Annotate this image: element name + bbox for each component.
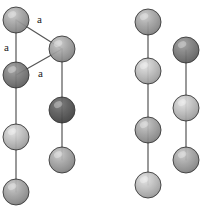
atom-body — [173, 95, 199, 121]
atom-sphere — [3, 124, 29, 150]
atom-sphere — [173, 37, 199, 63]
structure-figure: aaa — [0, 0, 206, 210]
atom-sphere — [135, 117, 161, 143]
atom-body — [135, 172, 161, 198]
atom-body — [49, 147, 75, 173]
atom-body — [3, 124, 29, 150]
atom-body — [3, 7, 29, 33]
sphere-layer — [3, 7, 199, 205]
atom-body — [173, 147, 199, 173]
atom-sphere — [135, 58, 161, 84]
structure-canvas — [0, 0, 206, 210]
atom-body — [135, 9, 161, 35]
atom-sphere — [3, 179, 29, 205]
atom-sphere — [135, 172, 161, 198]
atom-sphere — [49, 36, 75, 62]
atom-sphere — [3, 7, 29, 33]
atom-sphere — [135, 9, 161, 35]
atom-sphere — [49, 147, 75, 173]
atom-sphere — [49, 97, 75, 123]
label-a-top: a — [37, 14, 42, 25]
atom-sphere — [3, 62, 29, 88]
bond-layer — [16, 20, 186, 192]
atom-body — [173, 37, 199, 63]
atom-body — [135, 117, 161, 143]
atom-sphere — [173, 95, 199, 121]
atom-sphere — [173, 147, 199, 173]
atom-body — [135, 58, 161, 84]
atom-body — [3, 62, 29, 88]
label-a-left: a — [4, 42, 9, 53]
atom-body — [49, 36, 75, 62]
atom-body — [3, 179, 29, 205]
atom-body — [49, 97, 75, 123]
label-a-bottom: a — [38, 68, 43, 79]
